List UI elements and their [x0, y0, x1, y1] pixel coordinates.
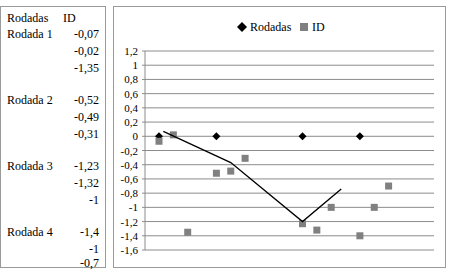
header-rodadas: Rodadas: [7, 11, 48, 25]
group-label: Rodada 2: [7, 93, 53, 107]
id-square-marker: [328, 204, 335, 211]
scatter-chart: Rodadas ID 1,210,80,60,40,20-0,2-0,4-0,6…: [114, 7, 445, 267]
id-square-marker: [184, 229, 191, 236]
legend-rodadas: Rodadas: [250, 20, 292, 34]
y-tick-label: -0,4: [121, 159, 139, 171]
group-label: Rodada 3: [7, 159, 53, 173]
rodadas-diamond-marker: [212, 132, 220, 140]
header-id: ID: [63, 11, 76, 25]
group-label: Rodada 4: [7, 225, 53, 239]
id-square-marker: [356, 232, 363, 239]
value-cell: -0,49: [74, 110, 99, 124]
value-cell: -0,31: [74, 127, 99, 141]
trend-line: [163, 131, 341, 221]
rodadas-diamond-marker: [299, 132, 307, 140]
legend: Rodadas ID: [237, 20, 325, 34]
value-cell: -0,02: [74, 44, 99, 58]
y-tick-label: 1,2: [124, 45, 138, 57]
data-series: [155, 131, 392, 239]
y-tick-label: 0,8: [124, 73, 138, 85]
y-tick-label: -1,2: [121, 216, 138, 228]
y-tick-label: 0: [133, 130, 139, 142]
value-cell: -1: [89, 193, 99, 207]
square-legend-icon: [300, 23, 308, 31]
value-cell: -1: [89, 242, 99, 256]
legend-id: ID: [312, 20, 325, 34]
value-cell: -1,4: [80, 225, 99, 239]
y-tick-label: -0,8: [121, 187, 139, 199]
y-tick-label: -1,6: [121, 244, 139, 256]
y-tick-label: 0,4: [124, 102, 138, 114]
y-tick-label: -0,2: [121, 145, 138, 157]
id-square-marker: [156, 138, 163, 145]
value-cell: -0,07: [74, 27, 99, 41]
chart-frame: Rodadas ID 1,210,80,60,40,20-0,2-0,4-0,6…: [113, 6, 446, 268]
y-tick-label: -0,6: [121, 173, 139, 185]
id-square-marker: [213, 170, 220, 177]
gridlines: [142, 51, 434, 250]
rodadas-diamond-marker: [356, 132, 364, 140]
data-table: Rodadas ID Rodada 1 -0,07 -0,02 -1,35 Ro…: [0, 6, 106, 268]
y-tick-label: -1,4: [121, 230, 139, 242]
value-cell: -1,35: [74, 61, 99, 75]
value-cell: -1,23: [74, 159, 99, 173]
y-tick-label: 0,2: [124, 116, 138, 128]
group-label: Rodada 1: [7, 27, 53, 41]
y-tick-label: 1: [133, 59, 139, 71]
y-tick-label: -1: [129, 201, 138, 213]
id-square-marker: [242, 155, 249, 162]
id-square-marker: [385, 183, 392, 190]
y-tick-label: 0,6: [124, 88, 138, 100]
diamond-legend-icon: [237, 22, 247, 32]
id-square-marker: [313, 227, 320, 234]
value-cell: -1,32: [74, 176, 99, 190]
value-cell: -0,7: [80, 256, 99, 270]
id-square-marker: [371, 204, 378, 211]
value-cell: -0,52: [74, 93, 99, 107]
y-axis-ticks: 1,210,80,60,40,20-0,2-0,4-0,6-0,8-1-1,2-…: [121, 45, 139, 256]
id-square-marker: [227, 168, 234, 175]
